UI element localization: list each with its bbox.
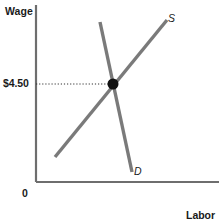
y-axis-title: Wage (5, 6, 33, 18)
equilibrium-point-marker (108, 79, 119, 90)
demand-curve-label: D (134, 166, 142, 178)
origin-label: 0 (22, 188, 28, 200)
x-axis-title: Labor (number of workers per year) (128, 186, 215, 224)
supply-demand-figure: Wage $4.50 0 Labor (number of workers pe… (0, 0, 219, 224)
supply-curve-label: S (168, 13, 175, 25)
y-axis-tick-label-450: $4.50 (3, 78, 29, 90)
x-axis-title-line-1: Labor (128, 210, 215, 222)
